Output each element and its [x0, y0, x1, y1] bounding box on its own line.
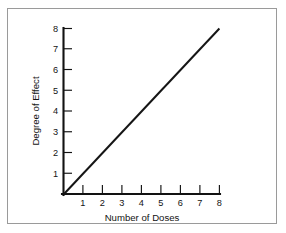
- y-tick-label-5: 5: [53, 86, 58, 96]
- x-tick-label-2: 2: [100, 198, 105, 208]
- y-tick-label-1: 1: [53, 169, 58, 179]
- x-tick-label-5: 5: [158, 198, 163, 208]
- y-axis-tick-labels: 1 2 3 4 5 6 7 8: [53, 24, 58, 179]
- x-tick-label-7: 7: [197, 198, 202, 208]
- x-tick-label-1: 1: [80, 198, 85, 208]
- line-chart: 1 2 3 4 5 6 7 8 1: [8, 9, 278, 225]
- y-tick-label-3: 3: [53, 127, 58, 137]
- data-series-group: [64, 29, 219, 195]
- y-axis-title: Degree of Effect: [30, 76, 41, 145]
- x-axis-tick-labels: 1 2 3 4 5 6 7 8: [80, 198, 222, 208]
- x-tick-label-3: 3: [119, 198, 124, 208]
- x-tick-label-8: 8: [217, 198, 222, 208]
- x-axis-ticks: [83, 185, 220, 193]
- plot-area: 1 2 3 4 5 6 7 8 1: [8, 9, 278, 225]
- y-tick-label-2: 2: [53, 148, 58, 158]
- dose-response-line: [64, 29, 219, 195]
- x-tick-label-4: 4: [139, 198, 144, 208]
- figure-frame: 1 2 3 4 5 6 7 8 1: [7, 8, 277, 224]
- x-tick-label-6: 6: [178, 198, 183, 208]
- y-tick-label-8: 8: [53, 24, 58, 34]
- y-tick-label-7: 7: [53, 44, 58, 54]
- x-axis-title: Number of Doses: [105, 212, 180, 223]
- y-tick-label-4: 4: [53, 106, 58, 116]
- y-axis-ticks: [64, 29, 72, 174]
- y-tick-label-6: 6: [53, 65, 58, 75]
